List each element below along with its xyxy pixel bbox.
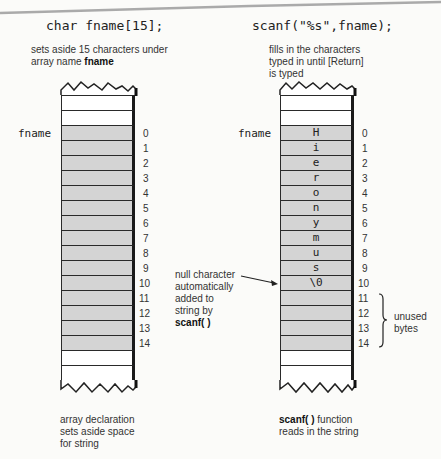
- right-array-label: fname: [238, 127, 271, 140]
- caption-bold-scanf: scanf( ): [279, 414, 315, 425]
- index-label: 4: [362, 188, 382, 199]
- null-character-arrow-icon: [0, 0, 441, 459]
- cell-char: n: [281, 201, 351, 215]
- unused-line: unused: [394, 311, 427, 323]
- index-label: 0: [362, 128, 382, 139]
- right-cell-7: m: [280, 230, 354, 245]
- index-label: 6: [362, 218, 382, 229]
- right-cell-14: [280, 335, 354, 350]
- caption-line: typed in until [Return]: [269, 56, 364, 68]
- right-bottom-caption: scanf( ) function reads in the string: [279, 414, 359, 438]
- caption-text: function: [315, 414, 353, 425]
- cell-char: s: [281, 261, 351, 275]
- cell-char: o: [281, 186, 351, 200]
- right-cell-8: u: [280, 245, 354, 260]
- right-cell-11: [280, 290, 354, 305]
- cell-char: y: [281, 216, 351, 230]
- right-cell-12: [280, 305, 354, 320]
- unused-line: bytes: [394, 323, 427, 335]
- index-label: 9: [362, 263, 382, 274]
- right-code-scanf: scanf("%s",fname);: [252, 18, 393, 33]
- index-label: 5: [362, 203, 382, 214]
- right-cell-empty-bottom-2: [280, 365, 354, 380]
- index-label: 13: [358, 323, 378, 334]
- cell-char: i: [281, 141, 351, 155]
- right-cell-3: r: [280, 170, 354, 185]
- right-cell-6: y: [280, 215, 354, 230]
- right-top-caption: fills in the characters typed in until […: [269, 44, 364, 80]
- right-torn-bottom-edge: [280, 380, 360, 396]
- caption-line: reads in the string: [279, 426, 359, 438]
- right-cell-5: n: [280, 200, 354, 215]
- cell-char: [281, 291, 351, 305]
- right-torn-top-edge: [280, 80, 360, 96]
- index-label: 2: [362, 158, 382, 169]
- caption-line: is typed: [269, 68, 364, 80]
- caption-line: fills in the characters: [269, 44, 364, 56]
- index-label: 8: [362, 248, 382, 259]
- right-cell-2: e: [280, 155, 354, 170]
- cell-char: \0: [281, 276, 351, 290]
- right-cell-9: s: [280, 260, 354, 275]
- cell-char: u: [281, 246, 351, 260]
- caption-line: scanf( ) function: [279, 414, 359, 426]
- index-label: 1: [362, 143, 382, 154]
- right-cell-0: H: [280, 125, 354, 140]
- unused-bytes-brace-icon: [378, 293, 390, 349]
- cell-char: [281, 306, 351, 320]
- right-cell-4: o: [280, 185, 354, 200]
- cell-char: [281, 336, 351, 350]
- index-label: 7: [362, 233, 382, 244]
- cell-char: [281, 321, 351, 335]
- right-cell-empty-top-2: [280, 110, 354, 125]
- index-label: 11: [358, 293, 378, 304]
- cell-char: e: [281, 156, 351, 170]
- right-cell-empty-bottom-1: [280, 350, 354, 365]
- index-label: 10: [358, 278, 378, 289]
- right-cell-empty-top-1: [280, 95, 354, 110]
- right-cell-1: i: [280, 140, 354, 155]
- index-label: 14: [358, 338, 378, 349]
- right-cell-10: \0: [280, 275, 354, 290]
- index-label: 3: [362, 173, 382, 184]
- right-cell-13: [280, 320, 354, 335]
- unused-bytes-label: unused bytes: [394, 311, 427, 335]
- cell-char: r: [281, 171, 351, 185]
- cell-char: H: [281, 126, 351, 140]
- index-label: 12: [358, 308, 378, 319]
- cell-char: m: [281, 231, 351, 245]
